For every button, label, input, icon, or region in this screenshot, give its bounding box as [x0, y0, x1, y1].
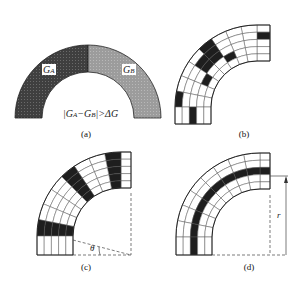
grid-cell	[260, 160, 270, 167]
grid-cell	[183, 237, 190, 255]
grid-cell	[257, 54, 270, 61]
panel-b-random-grid	[175, 25, 270, 124]
panel-c-radial-bands	[37, 152, 131, 255]
grid-cell	[260, 175, 270, 182]
grid-cell	[121, 166, 131, 173]
grid-cell	[121, 152, 131, 159]
grid-cell	[204, 107, 211, 124]
radius-arrow-icon	[284, 176, 288, 183]
grid-cell	[182, 107, 189, 124]
grid-cell	[175, 107, 182, 124]
panel-d-circumferential-band	[176, 153, 270, 255]
grid-cell	[59, 236, 66, 255]
panel-a-caption: (a)	[81, 129, 91, 139]
grid-cell-dark	[260, 167, 270, 174]
grid-cell	[121, 181, 131, 188]
panel-d-caption: (d)	[244, 262, 255, 272]
grid-cell-dark	[189, 107, 196, 124]
region-b-label: GB	[122, 64, 136, 75]
grid-cell-dark	[257, 32, 270, 39]
grid-cell	[51, 236, 58, 255]
panel-b-caption: (b)	[239, 129, 250, 139]
radius-label: r	[277, 210, 281, 220]
condition-label: |GA−GB|>ΔG	[63, 108, 118, 119]
grid-cell	[44, 236, 51, 255]
grid-cell	[37, 236, 44, 255]
theta-label: θ	[90, 243, 94, 253]
figure-canvas	[0, 0, 304, 289]
grid-cell-dark	[190, 237, 197, 255]
grid-cell	[257, 47, 270, 54]
grid-cell	[197, 107, 204, 124]
grid-cell	[66, 236, 73, 255]
grid-cell	[260, 182, 270, 189]
panel-c-caption: (c)	[81, 262, 91, 272]
grid-cell	[260, 153, 270, 160]
grid-cell	[121, 159, 131, 166]
region-a-label: GA	[42, 64, 56, 75]
grid-cell	[257, 25, 270, 32]
grid-cell	[257, 39, 270, 46]
grid-cell	[121, 174, 131, 181]
grid-cell	[176, 237, 183, 255]
grid-cell	[198, 237, 205, 255]
grid-cell	[205, 237, 212, 255]
